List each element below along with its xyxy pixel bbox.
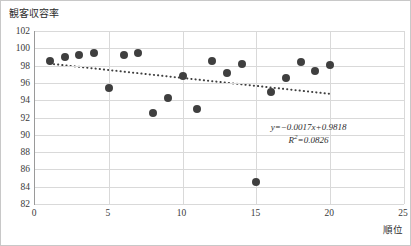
- data-point: [326, 61, 334, 69]
- gridline-horizontal: [35, 169, 404, 170]
- x-axis-tick-label: 15: [251, 208, 261, 218]
- data-point: [90, 49, 98, 57]
- y-axis-tick-label: 82: [21, 199, 31, 209]
- gridline-horizontal: [35, 152, 404, 153]
- gridline-vertical: [183, 31, 184, 204]
- chart-title: 観客収容率: [9, 5, 59, 20]
- data-point: [282, 74, 290, 82]
- regression-equation: y=−0.0017x+0.9818: [229, 121, 388, 133]
- x-axis-tick-label: 0: [32, 208, 37, 218]
- gridline-horizontal: [35, 204, 404, 205]
- data-point: [105, 84, 113, 92]
- gridline-horizontal: [35, 31, 404, 32]
- data-point: [238, 60, 246, 68]
- y-axis-tick-label: 102: [16, 26, 30, 36]
- y-axis-tick-label: 86: [21, 164, 31, 174]
- x-axis-tick-label: 20: [324, 208, 334, 218]
- gridline-vertical: [404, 31, 405, 204]
- data-point: [46, 57, 54, 65]
- gridline-horizontal: [35, 100, 404, 101]
- y-axis-tick-labels: 828486889092949698100102: [1, 31, 30, 205]
- plot-area: [34, 31, 404, 205]
- y-axis-tick-label: 88: [21, 147, 31, 157]
- x-axis-tick-label: 25: [398, 208, 408, 218]
- y-axis-tick-label: 100: [16, 43, 30, 53]
- gridline-vertical: [330, 31, 331, 204]
- x-axis-tick-label: 5: [105, 208, 110, 218]
- x-axis-title: 順位: [383, 222, 403, 236]
- r-squared-number: =0.0826: [298, 135, 329, 145]
- scatter-chart-figure: 観客収容率 828486889092949698100102 051015202…: [0, 0, 411, 246]
- gridline-horizontal: [35, 187, 404, 188]
- data-point: [297, 58, 305, 66]
- y-axis-tick-label: 96: [21, 78, 31, 88]
- data-point: [61, 53, 69, 61]
- y-axis-tick-label: 94: [21, 95, 31, 105]
- y-axis-tick-label: 92: [21, 113, 31, 123]
- gridline-vertical: [109, 31, 110, 204]
- gridline-horizontal: [35, 66, 404, 67]
- y-axis-tick-label: 90: [21, 130, 31, 140]
- x-axis-tick-label: 10: [177, 208, 187, 218]
- y-axis-tick-label: 98: [21, 61, 31, 71]
- x-axis-tick-labels: 0510152025: [34, 208, 404, 222]
- data-point: [267, 88, 275, 96]
- gridline-horizontal: [35, 83, 404, 84]
- data-point: [179, 72, 187, 80]
- data-point: [223, 69, 231, 77]
- gridline-horizontal: [35, 118, 404, 119]
- data-point: [120, 51, 128, 59]
- trendline-equation-annotation: y=−0.0017x+0.9818 R2=0.0826: [229, 121, 388, 146]
- r-squared-value: R2=0.0826: [229, 133, 388, 146]
- y-axis-tick-label: 84: [21, 182, 31, 192]
